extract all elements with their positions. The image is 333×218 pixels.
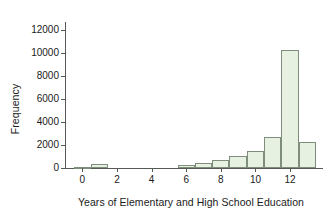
x-axis-tick-label: 2 (114, 174, 120, 185)
x-axis-tick-mark (82, 168, 83, 172)
histogram-bar (299, 142, 316, 168)
y-axis-tick-mark (61, 168, 66, 169)
y-axis-tick-mark (61, 99, 66, 100)
x-axis-tick-mark (221, 168, 222, 172)
x-axis-tick-label: 0 (80, 174, 86, 185)
y-axis-tick-label: 0 (53, 162, 59, 173)
x-axis-tick-label: 8 (218, 174, 224, 185)
x-axis-tick-mark (255, 168, 256, 172)
histogram-bar (229, 156, 246, 168)
x-axis-tick-label: 6 (183, 174, 189, 185)
y-axis-tick-mark (61, 76, 66, 77)
y-axis-title: Frequency (0, 0, 30, 218)
histogram-bar (281, 50, 298, 168)
x-axis-title: Years of Elementary and High School Educ… (64, 196, 318, 208)
y-axis-line (65, 22, 66, 168)
y-axis-tick-label: 4000 (37, 116, 59, 127)
y-axis-tick-label: 8000 (37, 70, 59, 81)
plot-area: 020004000600080001000012000 024681012 (65, 22, 323, 168)
histogram-bar (264, 137, 281, 168)
y-axis-tick-label: 6000 (37, 93, 59, 104)
y-axis-tick-mark (61, 122, 66, 123)
y-axis-tick-label: 12000 (31, 24, 59, 35)
y-axis-tick-mark (61, 30, 66, 31)
x-axis-tick-mark (186, 168, 187, 172)
y-axis-tick-label: 2000 (37, 139, 59, 150)
histogram-bar (195, 163, 212, 168)
histogram-bar (91, 164, 108, 168)
histogram-bar (247, 151, 264, 168)
x-axis-line (65, 168, 323, 169)
histogram-figure: Frequency 020004000600080001000012000 02… (0, 0, 333, 218)
x-axis-tick-mark (117, 168, 118, 172)
y-axis-tick-mark (61, 53, 66, 54)
histogram-bar (212, 160, 229, 168)
y-axis-tick-label: 10000 (31, 47, 59, 58)
y-axis-tick-mark (61, 145, 66, 146)
x-axis-tick-label: 10 (250, 174, 261, 185)
x-axis-tick-label: 12 (285, 174, 296, 185)
x-axis-tick-mark (290, 168, 291, 172)
x-axis-tick-mark (152, 168, 153, 172)
x-axis-tick-label: 4 (149, 174, 155, 185)
